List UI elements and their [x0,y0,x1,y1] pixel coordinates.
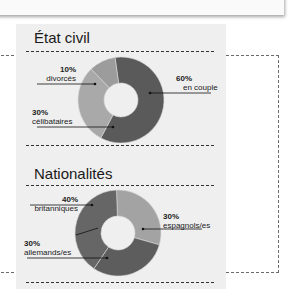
leader-dot [106,257,109,260]
label-value: 30% [32,108,72,117]
leader-dot [149,92,152,95]
label-divorces: 10% divorcés [26,65,76,83]
label-name: en couple [176,83,218,92]
label-name: britanniques [34,204,78,213]
label-britanniques: 40% britanniques [24,195,78,213]
label-celibataires: 30% célibataires [32,108,72,126]
leader-dot [91,204,94,207]
label-en-couple: 60% en couple [176,74,218,92]
label-value: 10% [26,65,76,74]
leader-dot [142,228,145,231]
donut-nationalites [75,190,161,276]
label-value: 30% [24,239,71,248]
donut-etat-civil [78,57,164,143]
label-espagnols: 30% espagnols/es [163,212,210,230]
label-name: espagnols/es [163,221,210,230]
label-name: divorcés [46,74,76,83]
label-name: célibataires [32,117,72,126]
label-allemands: 30% allemands/es [24,239,71,257]
label-name: allemands/es [24,248,71,257]
leader-dot [94,83,97,86]
slice-espagnols-es [116,190,161,245]
label-value: 60% [176,74,218,83]
label-value: 40% [24,195,78,204]
leader-dot [112,126,115,129]
label-value: 30% [163,212,210,221]
